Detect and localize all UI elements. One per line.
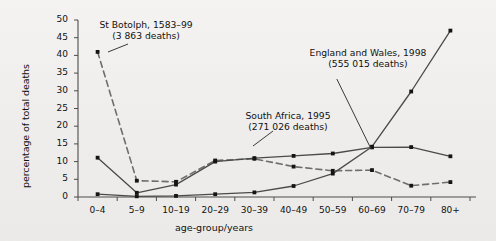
annotation-st-botolph: St Botolph, 1583–99 (3 863 deaths) — [66, 19, 226, 41]
series-2 — [96, 145, 453, 195]
data-point — [96, 156, 100, 160]
leader-line — [253, 131, 273, 146]
data-point — [213, 160, 217, 164]
annotation-south-africa: South Africa, 1995 (271 026 deaths) — [218, 110, 358, 132]
leader-line — [108, 44, 128, 52]
annotation-england-wales-line2: (555 015 deaths) — [293, 58, 443, 69]
data-point — [449, 29, 453, 33]
data-point — [135, 179, 139, 183]
annotation-south-africa-line2: (271 026 deaths) — [218, 121, 358, 132]
data-point — [174, 183, 178, 187]
data-point — [213, 192, 217, 196]
data-point — [96, 50, 100, 54]
annotation-england-wales-line1: England and Wales, 1998 — [310, 47, 427, 58]
data-point — [174, 194, 178, 198]
y-axis-ticks — [74, 20, 78, 197]
annotation-st-botolph-line1: St Botolph, 1583–99 — [99, 19, 192, 30]
data-point — [292, 184, 296, 188]
data-point — [292, 165, 296, 169]
annotation-south-africa-line1: South Africa, 1995 — [245, 110, 330, 121]
data-point — [292, 154, 296, 158]
data-point — [135, 191, 139, 195]
data-point — [331, 152, 335, 156]
data-point — [253, 191, 257, 195]
data-point — [331, 172, 335, 176]
data-point — [409, 145, 413, 149]
series-line — [98, 147, 451, 193]
data-point — [135, 194, 139, 198]
data-point — [409, 184, 413, 188]
data-point — [409, 90, 413, 94]
annotation-england-wales: England and Wales, 1998 (555 015 deaths) — [293, 47, 443, 69]
annotation-st-botolph-line2: (3 863 deaths) — [66, 30, 226, 41]
data-point — [449, 180, 453, 184]
data-point — [449, 154, 453, 158]
data-point — [96, 192, 100, 196]
data-point — [253, 156, 257, 160]
chart-container: percentage of total deaths 0510152025303… — [0, 0, 496, 241]
data-point — [370, 168, 374, 172]
